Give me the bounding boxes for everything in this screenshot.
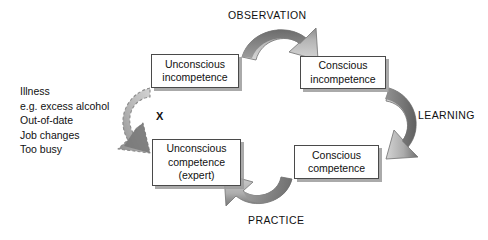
cycle-label-learning: LEARNING (418, 109, 475, 121)
stage-line: Conscious (312, 149, 361, 163)
cause-item: e.g. excess alcohol (20, 99, 109, 114)
cause-item: Illness (20, 84, 109, 99)
stage-line: incompetence (162, 71, 227, 85)
regression-causes-list: Illness e.g. excess alcohol Out-of-date … (20, 84, 109, 157)
cycle-label-observation: OBSERVATION (228, 9, 307, 21)
cause-item: Job changes (20, 128, 109, 143)
stage-line: Unconscious (165, 58, 225, 72)
cause-item: Out-of-date (20, 113, 109, 128)
stage-box-unconscious-incompetence[interactable]: Unconscious incompetence (151, 54, 239, 88)
stage-line: competence (308, 162, 365, 176)
stage-line: competence (168, 156, 225, 170)
arrow-learning (385, 88, 418, 159)
block-marker-x: X (156, 110, 163, 122)
stage-line: Conscious (318, 59, 367, 73)
cycle-label-practice: PRACTICE (248, 214, 304, 226)
stage-box-unconscious-competence[interactable]: Unconscious competence (expert) (152, 139, 241, 186)
stage-line: incompetence (310, 73, 375, 87)
stage-line: Unconscious (166, 142, 226, 156)
arrow-regression-dashed (118, 88, 150, 153)
competence-cycle-diagram: Unconscious incompetence Conscious incom… (0, 0, 488, 240)
stage-box-conscious-incompetence[interactable]: Conscious incompetence (300, 56, 386, 89)
stage-line: (expert) (178, 169, 214, 183)
cause-item: Too busy (20, 142, 109, 157)
stage-box-conscious-competence[interactable]: Conscious competence (294, 145, 379, 179)
